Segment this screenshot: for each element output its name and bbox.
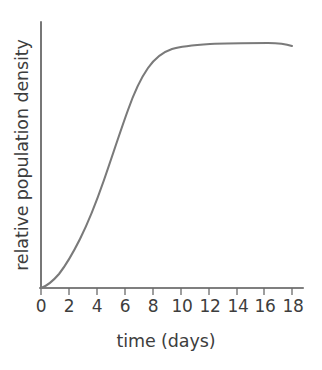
x-tick-label-8: 8 (148, 296, 159, 316)
y-axis-title: relative population density (12, 39, 32, 271)
x-tick-label-6: 6 (120, 296, 131, 316)
x-tick-label-14: 14 (227, 296, 248, 316)
x-axis-tick-marks (41, 288, 292, 295)
x-axis-tick-labels: 0 2 4 6 8 10 12 14 16 18 (36, 296, 304, 316)
x-axis-title: time (days) (117, 331, 216, 351)
x-tick-label-4: 4 (92, 296, 103, 316)
chart-canvas: 0 2 4 6 8 10 12 14 16 18 time (days) rel… (0, 0, 322, 370)
population-growth-chart: 0 2 4 6 8 10 12 14 16 18 time (days) rel… (0, 0, 322, 370)
x-tick-label-2: 2 (64, 296, 75, 316)
x-tick-label-12: 12 (199, 296, 220, 316)
x-tick-label-0: 0 (36, 296, 47, 316)
x-tick-label-10: 10 (171, 296, 192, 316)
x-tick-label-18: 18 (282, 296, 303, 316)
x-tick-label-16: 16 (254, 296, 275, 316)
population-density-curve (41, 43, 292, 288)
